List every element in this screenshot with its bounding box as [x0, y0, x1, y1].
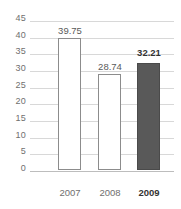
y-tick-label-0: 0 — [0, 164, 26, 173]
bar-2009[interactable] — [137, 63, 160, 170]
y-tick-label-15: 15 — [0, 114, 26, 123]
gridline-45 — [30, 21, 174, 22]
y-tick-label-35: 35 — [0, 47, 26, 56]
x-axis-label-2009: 2009 — [124, 188, 174, 198]
y-tick-label-25: 25 — [0, 81, 26, 90]
y-tick-label-5: 5 — [0, 147, 26, 156]
y-tick-label-30: 30 — [0, 64, 26, 73]
value-label-2008: 28.74 — [85, 62, 135, 72]
bar-chart: 45 40 35 30 25 20 15 10 5 0 39.75 28.74 … — [0, 0, 181, 209]
value-label-2007: 39.75 — [45, 26, 95, 36]
value-label-2009: 32.21 — [124, 48, 174, 58]
y-tick-label-45: 45 — [0, 14, 26, 23]
y-tick-label-40: 40 — [0, 31, 26, 40]
y-tick-label-20: 20 — [0, 97, 26, 106]
y-tick-label-10: 10 — [0, 131, 26, 140]
bar-2007[interactable] — [58, 38, 81, 170]
bar-2008[interactable] — [98, 74, 121, 170]
gridline-0-baseline — [30, 171, 174, 172]
gridline-40 — [30, 38, 174, 39]
